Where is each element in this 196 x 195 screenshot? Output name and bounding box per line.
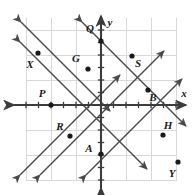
point-label-q: Q [86,22,94,34]
point-label-p: P [39,87,46,99]
point-label-x: X [25,58,34,70]
point-label-h: H [163,119,173,131]
point-x [35,50,40,55]
point-label-g: G [72,52,80,64]
point-label-s: S [135,57,141,69]
point-h [160,132,165,137]
y-axis-label: y [106,16,113,28]
point-g [85,66,90,71]
point-label-b: B [148,91,156,103]
point-label-a: A [84,142,92,154]
point-q [98,38,103,43]
point-label-r: R [55,120,63,132]
point-r [67,133,72,138]
coordinate-plane-figure: QXGSPBRAHY x y [0,0,196,195]
point-a [98,151,103,156]
x-axis-label: x [180,87,187,99]
coordinate-plane-svg: QXGSPBRAHY x y [0,0,196,195]
point-y [175,159,180,164]
point-s [129,53,134,58]
point-p [48,102,53,107]
